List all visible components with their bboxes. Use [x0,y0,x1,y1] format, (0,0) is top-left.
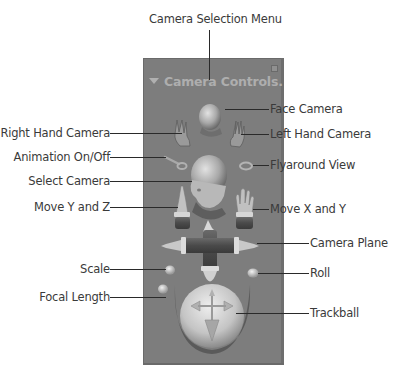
leader-camera-plane [257,243,309,244]
leader-select-camera [110,181,192,182]
leader-roll [258,273,309,274]
callout-roll: Roll [310,266,330,280]
callout-camera-plane: Camera Plane [310,236,388,250]
callout-left-hand-camera: Left Hand Camera [270,127,371,141]
leader-animation-on-off [110,157,166,158]
open-hand-icon [236,189,254,230]
bald-head-icon [191,155,227,220]
callout-face-camera: Face Camera [270,102,343,116]
camera-plane-button[interactable] [161,220,259,282]
key-spoon-icon [165,157,187,169]
callout-focal-length: Focal Length [39,290,110,304]
leader-scale [110,269,166,270]
leader-move-x-and-y [253,209,269,210]
roll-button[interactable] [248,269,259,278]
small-sphere-icon [248,269,259,278]
leader-trackball [236,313,309,314]
leader-camera-selection-menu [209,30,210,80]
leader-focal-length [110,297,166,298]
trackball-sphere-icon [180,284,244,348]
callout-trackball: Trackball [310,306,359,320]
camera-controls-art [0,0,411,377]
callout-select-camera: Select Camera [28,174,110,188]
callout-animation-on-off: Animation On/Off [14,150,110,164]
callout-scale: Scale [80,262,110,276]
move-x-y-button[interactable] [236,189,254,230]
callout-camera-selection-menu: Camera Selection Menu [149,12,282,26]
face-head-icon [199,104,221,130]
callout-right-hand-camera: Right Hand Camera [0,126,110,140]
ring-icon [240,163,252,170]
animation-toggle-button[interactable] [165,157,187,169]
cross-fingers-icon [161,220,259,282]
small-sphere-icon [165,266,175,275]
face-camera-button[interactable] [199,104,222,137]
scale-button[interactable] [165,266,175,275]
leader-right-hand-camera [110,133,182,134]
trackball-button[interactable] [175,284,250,354]
callout-flyaround-view: Flyaround View [270,158,355,172]
callout-move-x-and-y: Move X and Y [270,202,346,216]
select-camera-button[interactable] [191,155,227,220]
flyaround-view-button[interactable] [240,163,252,170]
callout-move-y-and-z: Move Y and Z [34,200,110,214]
small-sphere-icon [158,285,168,294]
leader-face-camera [225,109,269,110]
leader-left-hand-camera [241,134,269,135]
leader-move-y-and-z [110,207,178,208]
leader-flyaround-view [253,165,269,166]
focal-length-button[interactable] [158,285,168,294]
